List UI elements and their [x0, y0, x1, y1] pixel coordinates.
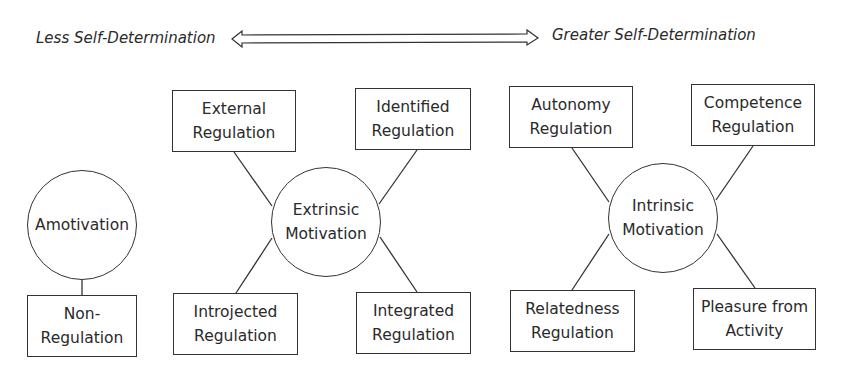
integrated-regulation-box: Integrated Regulation [356, 292, 471, 354]
amotivation-label: Amotivation [35, 213, 129, 237]
less-self-determination-label: Less Self-Determination [36, 29, 216, 47]
box-line-1: Competence [704, 91, 802, 115]
double-arrow-icon [232, 30, 538, 47]
pleasure-from-activity-box: Pleasure from Activity [693, 288, 816, 350]
box-line-2: Regulation [193, 121, 276, 145]
box-line-1: Introjected [194, 300, 278, 324]
box-line-2: Regulation [530, 117, 613, 141]
identified-regulation-box: Identified Regulation [355, 88, 471, 150]
node-line-2: Motivation [285, 222, 367, 246]
autonomy-regulation-box: Autonomy Regulation [509, 86, 633, 148]
box-line-2: Regulation [712, 115, 795, 139]
box-line-2: Regulation [372, 323, 455, 347]
box-line-2: Regulation [194, 324, 277, 348]
node-line-1: Intrinsic [632, 194, 694, 218]
amotivation-node: Amotivation [27, 170, 137, 280]
greater-self-determination-label: Greater Self-Determination [552, 26, 756, 44]
box-line-1: Pleasure from [701, 295, 808, 319]
relatedness-regulation-box: Relatedness Regulation [510, 290, 635, 352]
box-line-1: Relatedness [525, 297, 619, 321]
intrinsic-motivation-node: Intrinsic Motivation [608, 163, 718, 273]
extrinsic-motivation-node: Extrinsic Motivation [271, 167, 381, 277]
competence-regulation-box: Competence Regulation [691, 84, 815, 146]
node-line-2: Motivation [622, 218, 704, 242]
box-line-2: Activity [726, 319, 784, 343]
box-line-2: Regulation [41, 326, 124, 350]
box-line-2: Regulation [531, 321, 614, 345]
introjected-regulation-box: Introjected Regulation [173, 293, 298, 355]
box-line-2: Regulation [372, 119, 455, 143]
box-line-1: Identified [376, 95, 449, 119]
box-line-1: External [202, 97, 266, 121]
non-regulation-box: Non- Regulation [27, 295, 137, 357]
node-line-1: Extrinsic [293, 198, 359, 222]
external-regulation-box: External Regulation [172, 90, 296, 152]
box-line-1: Integrated [373, 299, 454, 323]
box-line-1: Autonomy [531, 93, 611, 117]
box-line-1: Non- [64, 302, 101, 326]
